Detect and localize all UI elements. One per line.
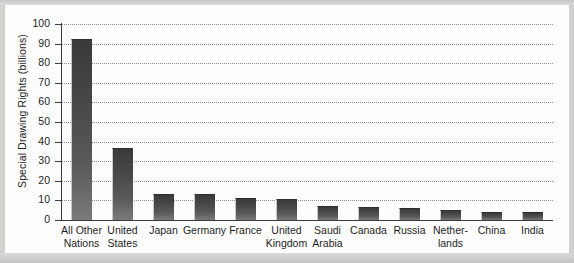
bar: [358, 207, 379, 220]
gridline: [61, 102, 553, 103]
gridline: [61, 63, 553, 64]
y-axis-tick-label: 100: [22, 18, 50, 28]
bar: [112, 148, 133, 220]
gridline: [61, 122, 553, 123]
bar: [399, 208, 420, 220]
screenshot-page: Special Drawing Rights (billions) 010203…: [0, 0, 574, 263]
gridline: [61, 161, 553, 162]
bar: [481, 212, 502, 220]
bar-chart: Special Drawing Rights (billions) 010203…: [0, 0, 574, 263]
bar: [522, 212, 543, 220]
x-axis-label-line: Arabia: [303, 237, 352, 250]
gridline: [61, 24, 553, 25]
y-axis-line: [61, 23, 62, 221]
bar: [153, 194, 174, 220]
y-axis-tick-label: 0: [22, 214, 50, 224]
y-axis-tick-label: 70: [22, 77, 50, 87]
gridline: [61, 181, 553, 182]
y-axis-tick-label: 80: [22, 57, 50, 67]
y-axis-tick-label: 20: [22, 175, 50, 185]
gridline: [61, 83, 553, 84]
bar: [71, 39, 92, 220]
x-axis-label-line: India: [508, 224, 557, 237]
bar: [317, 206, 338, 220]
gridline: [61, 44, 553, 45]
bar: [276, 199, 297, 220]
plot-area: [61, 24, 553, 220]
y-axis-tick-label: 50: [22, 116, 50, 126]
x-axis-label: India: [508, 224, 557, 237]
x-axis-line: [61, 220, 553, 221]
bar: [194, 194, 215, 220]
x-axis-label-line: States: [98, 237, 147, 250]
bar: [235, 198, 256, 220]
y-axis-tick-label: 60: [22, 96, 50, 106]
bar: [440, 210, 461, 220]
y-axis-tick-label: 40: [22, 136, 50, 146]
y-axis-tick-label: 90: [22, 38, 50, 48]
y-axis-tick-label: 10: [22, 194, 50, 204]
gridline: [61, 142, 553, 143]
y-axis-tick-label: 30: [22, 155, 50, 165]
gridline: [61, 200, 553, 201]
x-axis-label-line: lands: [426, 237, 475, 250]
